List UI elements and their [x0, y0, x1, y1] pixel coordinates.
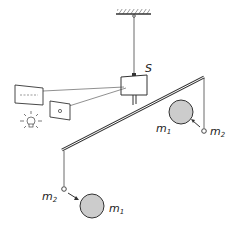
mirror-label: S — [145, 62, 152, 75]
small-mass-right — [202, 129, 207, 134]
small-mass-left-label: m2 — [42, 190, 58, 204]
scale-screen — [15, 85, 43, 105]
small-mass-left — [62, 187, 67, 192]
attraction-arrow-right — [193, 121, 200, 127]
large-mass-right-label: m1 — [156, 122, 171, 136]
attraction-arrow-left — [68, 193, 76, 198]
large-mass-right — [169, 100, 193, 124]
small-mass-right-label: m2 — [210, 125, 226, 139]
mirror — [121, 73, 147, 105]
slit-plate — [50, 101, 70, 120]
ceiling-support — [116, 9, 151, 17]
large-mass-left-label: m1 — [109, 202, 124, 216]
large-mass-left — [80, 194, 104, 218]
cavendish-diagram: S m1 m2 m2 m1 — [0, 0, 236, 229]
lamp-icon — [20, 111, 42, 128]
